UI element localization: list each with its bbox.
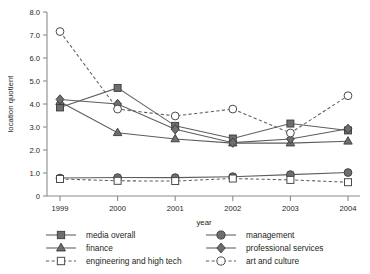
filled-triangle-marker	[171, 134, 179, 141]
markers-finance	[56, 97, 352, 146]
open-square-marker	[345, 179, 352, 186]
y-axis-title: location quotient	[6, 75, 15, 133]
x-tick-label: 2000	[109, 204, 126, 213]
chart-canvas: 01.02.03.04.05.06.07.08.0location quotie…	[0, 0, 370, 274]
filled-triangle-marker	[344, 137, 352, 144]
series-group	[56, 28, 352, 186]
y-tick-label: 7.0	[29, 31, 40, 40]
legend-entry[interactable]: art and culture	[206, 256, 299, 266]
series-path	[60, 173, 348, 179]
x-axis-title: year	[196, 218, 212, 227]
y-tick-label: 8.0	[29, 8, 40, 17]
x-tick-label: 2003	[282, 204, 299, 213]
filled-triangle-marker	[113, 128, 121, 135]
x-tick-label: 2001	[167, 204, 184, 213]
y-tick-label: 6.0	[29, 54, 40, 63]
series-engineering-and-high-tech	[60, 179, 348, 183]
open-square-marker	[57, 175, 64, 182]
open-circle-marker	[171, 112, 179, 120]
y-tick-label: 1.0	[29, 169, 40, 178]
markers-art-and-culture	[56, 28, 352, 137]
open-square-marker	[229, 175, 236, 182]
series-media-overall	[60, 88, 348, 139]
filled-triangle-marker	[57, 243, 66, 251]
open-square-marker	[57, 257, 64, 264]
x-tick-label: 2002	[224, 204, 241, 213]
y-tick-label: 0	[36, 192, 40, 201]
filled-square-marker	[114, 84, 121, 91]
series-path	[60, 32, 348, 133]
x-axis-ticks: 199920002001200220032004	[52, 196, 357, 213]
open-square-marker	[172, 178, 179, 185]
series-management	[60, 173, 348, 179]
open-circle-marker	[344, 92, 352, 100]
legend: media overallmanagementfinanceprofession…	[46, 230, 323, 266]
open-circle-marker	[217, 257, 225, 265]
legend-label: media overall	[86, 230, 136, 240]
series-art-and-culture	[60, 32, 348, 133]
y-tick-label: 5.0	[29, 77, 40, 86]
series-path	[60, 99, 348, 142]
legend-entry[interactable]: finance	[46, 243, 113, 253]
markers-media-overall	[57, 84, 352, 142]
open-square-marker	[287, 176, 294, 183]
legend-entry[interactable]: engineering and high tech	[46, 256, 182, 266]
location-quotient-line-chart: 01.02.03.04.05.06.07.08.0location quotie…	[0, 0, 370, 274]
legend-label: management	[246, 230, 295, 240]
filled-square-marker	[287, 120, 294, 127]
filled-circle-marker	[344, 169, 352, 177]
series-path	[60, 88, 348, 139]
open-circle-marker	[229, 105, 237, 113]
legend-entry[interactable]: management	[206, 230, 295, 240]
filled-diamond-marker	[217, 243, 225, 253]
legend-label: engineering and high tech	[86, 256, 182, 266]
filled-square-marker	[57, 231, 64, 238]
x-tick-label: 1999	[52, 204, 69, 213]
open-circle-marker	[287, 129, 295, 137]
open-circle-marker	[114, 105, 122, 113]
legend-label: professional services	[246, 243, 323, 253]
y-axis-ticks: 01.02.03.04.05.06.07.08.0	[29, 8, 47, 201]
open-square-marker	[114, 177, 121, 184]
legend-label: finance	[86, 243, 113, 253]
series-path	[60, 179, 348, 183]
axes-group	[47, 12, 360, 196]
y-tick-label: 3.0	[29, 123, 40, 132]
open-circle-marker	[56, 28, 64, 36]
filled-circle-marker	[217, 231, 225, 239]
legend-label: art and culture	[246, 256, 299, 266]
axis-lines	[47, 12, 360, 196]
x-tick-label: 2004	[340, 204, 357, 213]
y-tick-label: 4.0	[29, 100, 40, 109]
y-tick-label: 2.0	[29, 146, 40, 155]
series-professional-services	[60, 99, 348, 142]
legend-entry[interactable]: professional services	[206, 243, 323, 253]
legend-entry[interactable]: media overall	[46, 230, 136, 240]
